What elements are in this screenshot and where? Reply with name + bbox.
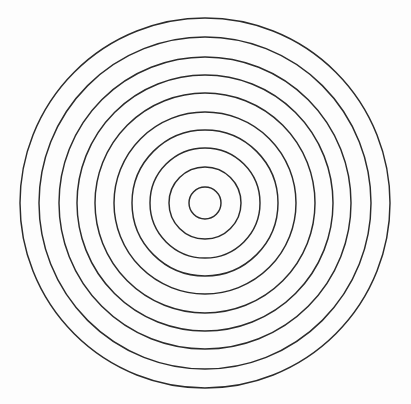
concentric-circles-canvas: [0, 0, 411, 404]
figure-background: [0, 0, 411, 404]
concentric-circles-figure: [0, 0, 411, 404]
